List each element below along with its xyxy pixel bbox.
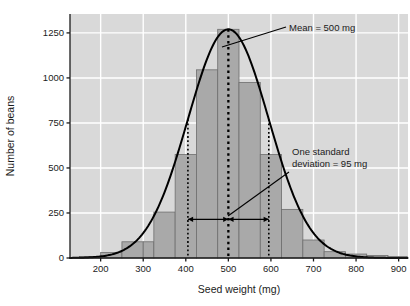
y-tick-label: 1250: [43, 27, 64, 38]
y-tick-label: 750: [48, 117, 64, 128]
x-tick-label: 500: [220, 263, 236, 274]
x-tick-label: 900: [391, 263, 407, 274]
y-tick-label: 500: [48, 162, 64, 173]
histogram-bar: [282, 209, 303, 258]
x-tick-label: 800: [348, 263, 364, 274]
x-axis-tick-labels: 200300400500600700800900: [93, 258, 407, 274]
histogram-bar: [154, 212, 175, 258]
histogram-bar: [143, 242, 154, 258]
x-axis-title: Seed weight (mg): [198, 283, 280, 295]
x-tick-label: 200: [93, 263, 109, 274]
histogram-bar: [239, 82, 260, 258]
seed-weight-histogram-chart: 025050075010001250 200300400500600700800…: [0, 0, 410, 306]
sd-annotation-label-line2: deviation = 95 mg: [292, 158, 367, 169]
y-tick-label: 1000: [43, 72, 64, 83]
histogram-bar: [175, 154, 196, 258]
y-tick-label: 250: [48, 207, 64, 218]
y-tick-label: 0: [59, 252, 64, 263]
sd-annotation-label-line1: One standard: [292, 146, 350, 157]
x-tick-label: 700: [306, 263, 322, 274]
histogram-bar: [196, 70, 217, 258]
mean-annotation-label: Mean = 500 mg: [289, 22, 355, 33]
y-axis-title: Number of beans: [4, 96, 16, 177]
histogram-bar: [260, 154, 281, 258]
x-tick-label: 600: [263, 263, 279, 274]
x-tick-label: 300: [135, 263, 151, 274]
figure-container: 025050075010001250 200300400500600700800…: [0, 0, 410, 306]
x-tick-label: 400: [178, 263, 194, 274]
y-axis-tick-labels: 025050075010001250: [43, 27, 70, 263]
